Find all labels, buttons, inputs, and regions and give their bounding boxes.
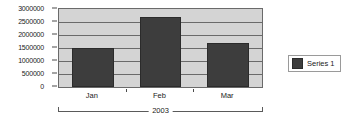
- bar-chart: 3000000250000020000001500000100000050000…: [0, 0, 361, 124]
- group-axis-label: 2003: [148, 106, 173, 115]
- y-axis-tick-label: 3000000: [18, 5, 44, 12]
- y-axis-tick-mark: [52, 34, 57, 35]
- y-axis-tick-mark: [52, 21, 57, 22]
- x-axis-tick-label: Mar: [221, 91, 234, 100]
- bar-group-mar: [207, 9, 249, 87]
- x-axis-tick-mark: [193, 89, 194, 92]
- y-axis-tick-label: 1000000: [18, 57, 44, 64]
- bars-layer: [59, 9, 262, 87]
- y-axis-tick-label: 500000: [22, 70, 44, 77]
- bar-mar[interactable]: [207, 43, 249, 87]
- bar-group-jan: [72, 9, 114, 87]
- plot-area: [58, 8, 263, 88]
- bar-jan[interactable]: [72, 48, 114, 87]
- x-axis-tick-mark: [126, 89, 127, 92]
- bracket-end-right: [262, 107, 263, 112]
- x-axis-tick-label: Jan: [86, 91, 98, 100]
- y-axis-tick-mark: [52, 47, 57, 48]
- bar-feb[interactable]: [140, 17, 182, 87]
- x-axis: JanFebMar: [58, 89, 263, 103]
- y-axis-tick-label: 0: [40, 83, 44, 90]
- y-axis-tick-label: 1500000: [18, 44, 44, 51]
- y-axis: 3000000250000020000001500000100000050000…: [0, 0, 52, 96]
- x-axis-tick-label: Feb: [153, 91, 166, 100]
- y-axis-tick-mark: [52, 60, 57, 61]
- legend[interactable]: Series 1: [288, 55, 341, 72]
- legend-swatch-series-1: [292, 58, 303, 69]
- y-axis-tick-mark: [52, 8, 57, 9]
- group-axis-bracket: 2003: [58, 106, 263, 120]
- y-axis-tick-mark: [52, 86, 57, 87]
- y-axis-tick-label: 2500000: [18, 18, 44, 25]
- y-axis-tick-label: 2000000: [18, 31, 44, 38]
- y-axis-tick-mark: [52, 73, 57, 74]
- bracket-end-left: [58, 107, 59, 112]
- bar-group-feb: [140, 9, 182, 87]
- legend-label-series-1: Series 1: [307, 59, 335, 68]
